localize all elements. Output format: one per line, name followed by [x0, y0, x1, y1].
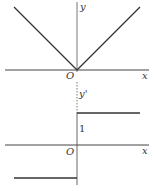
tick-label-one: 1: [79, 123, 85, 134]
derivative-diagram: y x O y' 1 x O: [0, 0, 155, 191]
abs-left-branch: [14, 7, 77, 70]
bottom-origin-label: O: [66, 146, 74, 157]
bottom-x-label: x: [142, 145, 148, 156]
top-graph: y x O: [5, 1, 149, 81]
abs-right-branch: [77, 7, 140, 70]
top-x-label: x: [142, 70, 148, 81]
top-y-label: y: [79, 1, 86, 12]
bottom-graph: y' 1 x O: [5, 82, 149, 185]
top-origin-label: O: [66, 70, 74, 81]
bottom-y-label: y': [78, 88, 87, 99]
